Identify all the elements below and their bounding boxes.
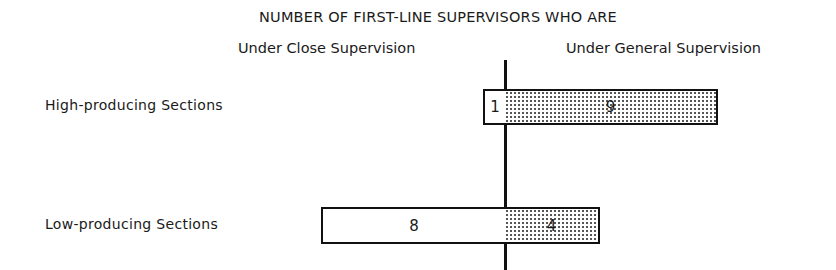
bar-high-close: 1 bbox=[483, 89, 507, 125]
bar-low-general: 4 bbox=[505, 207, 600, 244]
bar-value: 8 bbox=[409, 217, 419, 235]
bar-high-general: 9 bbox=[505, 89, 718, 125]
bar-value: 4 bbox=[547, 217, 557, 235]
row-label-high: High-producing Sections bbox=[45, 97, 223, 113]
bar-value: 9 bbox=[606, 98, 616, 116]
chart-title: NUMBER OF FIRST-LINE SUPERVISORS WHO ARE bbox=[0, 9, 836, 25]
right-header: Under General Supervision bbox=[566, 40, 761, 56]
left-header: Under Close Supervision bbox=[238, 40, 415, 56]
bar-value: 1 bbox=[490, 98, 500, 116]
row-label-low: Low-producing Sections bbox=[45, 216, 218, 232]
bar-low-close: 8 bbox=[321, 207, 507, 244]
